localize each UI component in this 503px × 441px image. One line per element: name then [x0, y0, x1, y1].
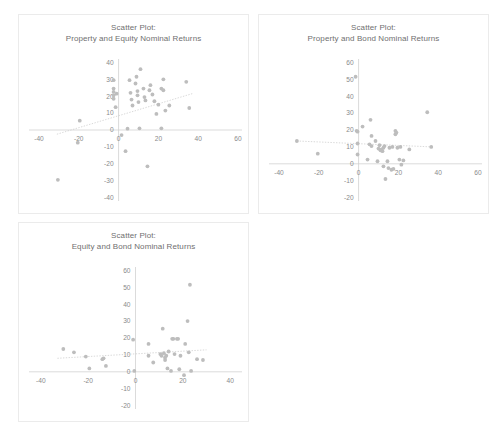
- data-point: [139, 67, 143, 71]
- y-tick-label: 10: [106, 109, 114, 116]
- y-tick-label: 40: [123, 301, 131, 308]
- x-tick-label: 40: [435, 169, 443, 176]
- data-point: [128, 78, 132, 82]
- data-point: [399, 163, 403, 167]
- x-tick-label: -40: [36, 377, 46, 384]
- data-point: [376, 159, 380, 163]
- data-point: [179, 354, 183, 358]
- data-point: [378, 143, 382, 147]
- x-tick-label: -20: [83, 377, 93, 384]
- data-point: [425, 110, 429, 114]
- data-point: [56, 178, 60, 182]
- data-point: [176, 337, 180, 341]
- data-point: [146, 164, 150, 168]
- data-point: [163, 358, 167, 362]
- data-point: [144, 99, 148, 103]
- x-tick-label: 20: [155, 135, 163, 142]
- data-point: [130, 98, 134, 102]
- data-point: [131, 104, 135, 108]
- data-point: [188, 283, 192, 287]
- data-point: [166, 367, 170, 371]
- data-point: [61, 347, 65, 351]
- data-point: [87, 367, 91, 371]
- data-point: [136, 89, 140, 93]
- data-point: [182, 373, 186, 377]
- y-tick-label: 20: [123, 334, 131, 341]
- data-point: [201, 358, 205, 362]
- data-point: [129, 91, 133, 95]
- data-point: [167, 104, 171, 108]
- data-point: [156, 103, 160, 107]
- data-point: [135, 75, 139, 79]
- y-tick-label: 50: [123, 284, 131, 291]
- data-point: [153, 99, 157, 103]
- x-tick-label: 20: [395, 169, 403, 176]
- y-tick-label: -10: [344, 177, 354, 184]
- y-tick-label: -20: [121, 402, 131, 409]
- data-point: [84, 355, 88, 359]
- x-tick-label: -40: [34, 135, 44, 142]
- y-tick-label: 40: [346, 93, 354, 100]
- data-point: [401, 159, 405, 163]
- y-tick-label: 50: [346, 76, 354, 83]
- data-point: [142, 87, 146, 91]
- x-tick-label: 0: [357, 169, 361, 176]
- data-point: [369, 118, 373, 122]
- data-point: [316, 152, 320, 156]
- data-point: [132, 369, 136, 373]
- data-point: [114, 105, 118, 109]
- y-tick-label: 20: [346, 126, 354, 133]
- data-point: [184, 80, 188, 84]
- data-point: [382, 164, 386, 168]
- y-tick-label: 10: [346, 143, 354, 150]
- data-point: [143, 95, 147, 99]
- chart-panel-property-equity: Scatter Plot: Property and Equity Nomina…: [18, 14, 249, 214]
- x-tick-label: 20: [179, 377, 187, 384]
- data-point: [78, 119, 82, 123]
- x-tick-label: -20: [74, 135, 84, 142]
- x-tick-label: 0: [134, 377, 138, 384]
- data-point: [76, 141, 80, 145]
- data-point: [295, 139, 299, 143]
- trend-line: [57, 94, 192, 135]
- data-point: [187, 350, 191, 354]
- x-tick-label: -40: [274, 169, 284, 176]
- data-point: [149, 83, 153, 87]
- y-tick-label: -10: [104, 143, 114, 150]
- y-tick-label: 0: [127, 368, 131, 375]
- data-point: [161, 77, 165, 81]
- y-tick-label: 0: [110, 126, 114, 133]
- data-point: [112, 78, 116, 82]
- data-point: [161, 88, 165, 92]
- data-point: [187, 106, 191, 110]
- data-point: [120, 133, 124, 137]
- data-point: [384, 177, 388, 181]
- data-point: [392, 167, 396, 171]
- data-point: [115, 92, 119, 96]
- y-tick-label: -20: [344, 194, 354, 201]
- y-tick-label: 40: [106, 59, 114, 66]
- data-point: [163, 109, 167, 113]
- data-point: [366, 158, 370, 162]
- y-tick-label: 60: [346, 59, 354, 66]
- data-point: [147, 354, 151, 358]
- data-point: [131, 338, 135, 342]
- data-point: [161, 327, 165, 331]
- data-point: [361, 125, 365, 129]
- data-point: [151, 93, 155, 97]
- data-point: [386, 159, 390, 163]
- x-tick-label: -20: [314, 169, 324, 176]
- data-point: [112, 87, 116, 91]
- x-tick-label: 40: [195, 135, 203, 142]
- trend-line: [57, 350, 206, 358]
- data-point: [407, 148, 411, 152]
- data-point: [148, 88, 152, 92]
- y-tick-label: 0: [350, 160, 354, 167]
- data-point: [189, 369, 193, 373]
- data-point: [72, 350, 76, 354]
- data-point: [102, 356, 106, 360]
- y-tick-label: 30: [346, 109, 354, 116]
- data-point: [356, 142, 360, 146]
- scatter-plot-property-equity: -40-30-20-1010203040-40-2002040600: [19, 15, 248, 213]
- data-point: [164, 354, 168, 358]
